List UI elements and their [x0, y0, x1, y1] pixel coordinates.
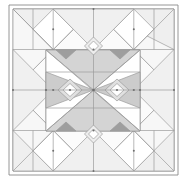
node-top — [92, 48, 94, 50]
pattern-canvas — [0, 0, 186, 185]
node-inner-right — [139, 89, 141, 91]
node-lattice-right — [133, 89, 135, 91]
node-corner-tr — [133, 28, 135, 30]
node-edge-top — [93, 8, 95, 10]
node-left-eye — [69, 89, 71, 91]
node-bottom — [92, 129, 94, 131]
node-corner-bl — [52, 150, 54, 152]
node-corner-tl — [52, 28, 54, 30]
node-corner-br — [133, 150, 135, 152]
node-inner-left — [45, 89, 47, 91]
node-edge-left — [12, 89, 14, 91]
node-edge-bottom — [93, 170, 95, 172]
node-lattice-left — [52, 89, 54, 91]
node-edge-right — [173, 89, 175, 91]
node-right-eye — [116, 89, 118, 91]
node-center — [92, 89, 95, 92]
geometric-pattern — [0, 0, 186, 185]
